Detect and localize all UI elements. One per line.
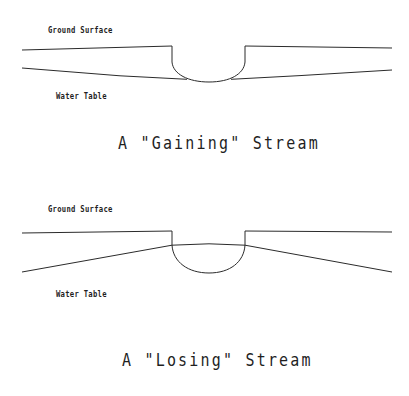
gaining-ground-surface-left-line	[22, 46, 172, 50]
gaining-water-table-right-line	[231, 70, 392, 79]
losing-channel-bed-curve	[172, 245, 245, 273]
losing-ground-surface-label: Ground Surface	[48, 203, 113, 214]
gaining-water-table-label: Water Table	[56, 90, 107, 101]
gaining-ground-surface-label: Ground Surface	[48, 24, 113, 35]
losing-ground-surface-left-line	[22, 231, 172, 233]
losing-stream-panel: Ground Surface Water Table A "Losing" St…	[22, 203, 392, 370]
losing-ground-surface-right-line	[245, 231, 392, 232]
figure-root: Ground Surface Water Table A "Gaining" S…	[0, 0, 409, 396]
gaining-stream-panel: Ground Surface Water Table A "Gaining" S…	[22, 24, 392, 153]
losing-water-table-label: Water Table	[56, 288, 107, 299]
losing-stream-caption: A "Losing" Stream	[122, 350, 313, 370]
gaining-stream-caption: A "Gaining" Stream	[118, 132, 320, 152]
gaining-water-table-left-line	[22, 68, 187, 79]
gaining-ground-surface-right-line	[245, 46, 392, 48]
losing-water-table-left-line	[22, 244, 209, 272]
stream-diagram-canvas: Ground Surface Water Table A "Gaining" S…	[0, 0, 409, 396]
losing-water-table-right-line	[209, 244, 392, 272]
